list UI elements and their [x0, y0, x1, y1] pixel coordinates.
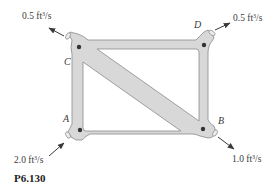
node-label-c: C [64, 57, 71, 67]
junction-c-dot [77, 45, 81, 49]
flow-label-c: 0.5 ft3/s [22, 11, 51, 22]
node-label-b: B [218, 116, 224, 126]
flow-value-d: 0.5 [233, 13, 245, 23]
flow-label-d: 0.5 ft3/s [233, 13, 262, 24]
flow-unit-post-b: /s [255, 154, 261, 164]
flow-arrow-a [49, 143, 64, 156]
flow-label-b: 1.0 ft3/s [232, 154, 261, 165]
figure-caption: P6.130 [14, 173, 45, 184]
node-label-d: D [194, 20, 201, 30]
flow-unit-post-c: /s [45, 11, 51, 21]
flow-value-c: 0.5 [22, 11, 34, 21]
flow-arrow-c [49, 28, 64, 36]
flow-arrow-d [215, 23, 230, 30]
flow-unit-post-d: /s [256, 13, 262, 23]
junction-b-dot [201, 127, 205, 131]
flow-value-a: 2.0 [14, 155, 26, 165]
flow-value-b: 1.0 [232, 154, 244, 164]
pipe-frame [65, 29, 219, 140]
junction-a-dot [78, 128, 82, 132]
junction-d-dot [202, 43, 206, 47]
flow-arrow-b [218, 137, 234, 149]
flow-label-a: 2.0 ft3/s [14, 155, 43, 166]
node-label-a: A [63, 114, 69, 124]
flow-unit-post-a: /s [37, 155, 43, 165]
